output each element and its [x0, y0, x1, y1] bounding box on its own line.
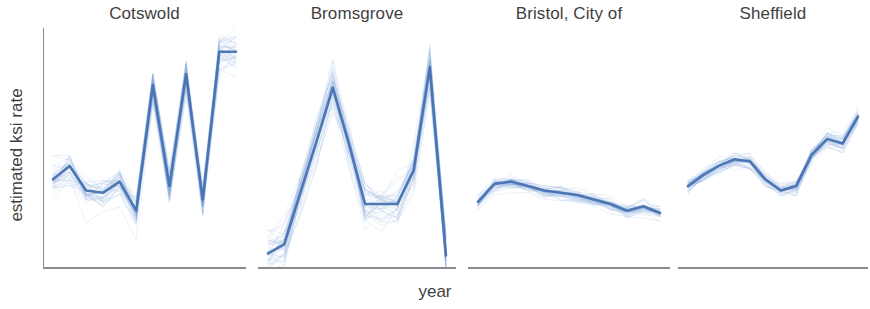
panel-title-bromsgrove: Bromsgrove	[258, 4, 456, 24]
panel-cotswold: Cotswold	[43, 28, 246, 268]
panel-title-cotswold: Cotswold	[43, 4, 246, 24]
panel-sheffield: Sheffield	[678, 28, 868, 268]
median-line	[688, 117, 858, 191]
figure-root: estimated ksi rate year Cotswold Bromsgr…	[0, 0, 870, 309]
panel-title-sheffield: Sheffield	[678, 4, 868, 24]
panel-bristol-city-of: Bristol, City of	[468, 28, 670, 268]
panel-plot-bromsgrove	[258, 28, 456, 268]
panel-plot-bristol-city-of	[468, 28, 670, 268]
x-axis-label: year	[0, 282, 870, 302]
panel-bromsgrove: Bromsgrove	[258, 28, 456, 268]
posterior-draws	[688, 106, 858, 196]
posterior-draws	[53, 27, 236, 239]
panel-plot-cotswold	[43, 28, 246, 268]
panel-plot-sheffield	[678, 28, 868, 268]
panel-title-bristol-city-of: Bristol, City of	[468, 4, 670, 24]
y-axis-label: estimated ksi rate	[7, 88, 27, 221]
posterior-draws	[268, 45, 446, 269]
